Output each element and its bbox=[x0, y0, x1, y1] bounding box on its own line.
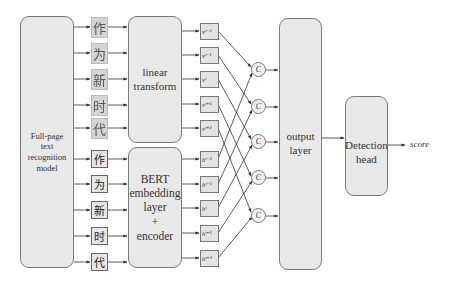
bert-label-3: layer bbox=[129, 200, 180, 214]
char-token: 时 bbox=[91, 227, 108, 245]
linear-transform-label-2: transform bbox=[134, 80, 177, 94]
v-vector: vᵗ⁻¹ bbox=[200, 47, 219, 64]
concat-node: C bbox=[251, 208, 266, 223]
concat-node: C bbox=[251, 99, 266, 114]
char-token: 新 bbox=[91, 201, 108, 219]
v-vector: vᵗ⁺² bbox=[200, 120, 219, 137]
concat-node: C bbox=[251, 170, 266, 185]
output-layer-label-1: output bbox=[286, 130, 314, 144]
v-vector: vᵗ bbox=[200, 71, 219, 88]
char-image: 新 bbox=[91, 69, 108, 90]
bert-label-1: BERT bbox=[129, 172, 180, 186]
ocr-model-label-2: text bbox=[28, 141, 67, 152]
bert-encoder-block: BERT embedding layer + encoder bbox=[128, 147, 182, 268]
h-vector: hᵗ⁻² bbox=[200, 151, 219, 168]
h-vector: hᵗ bbox=[200, 200, 219, 217]
output-layer-label-2: layer bbox=[286, 144, 314, 158]
output-layer-block: output layer bbox=[279, 18, 322, 270]
h-vector: hᵗ⁺¹ bbox=[200, 225, 219, 242]
bert-label-2: embedding bbox=[129, 186, 180, 200]
concat-node: C bbox=[251, 62, 266, 77]
char-image: 为 bbox=[91, 43, 108, 64]
char-image: 作 bbox=[91, 17, 108, 38]
detection-head-label-2: head bbox=[349, 153, 384, 167]
char-image: 时 bbox=[91, 95, 108, 116]
v-vector: vᵗ⁻² bbox=[200, 23, 219, 40]
concat-node: C bbox=[251, 134, 266, 149]
detection-head-block: Detection head bbox=[345, 96, 388, 196]
h-vector: hᵗ⁺² bbox=[200, 250, 219, 267]
bert-label-5: encoder bbox=[129, 229, 180, 243]
linear-transform-block: linear transform bbox=[128, 16, 182, 143]
ocr-model-label-3: recognition bbox=[28, 152, 67, 163]
bert-label-4: + bbox=[129, 215, 180, 229]
detection-head-label-1: Detection bbox=[345, 139, 388, 153]
char-token: 为 bbox=[91, 175, 108, 193]
ocr-model-block: Full-page text recognition model bbox=[20, 16, 74, 268]
h-vector: hᵗ⁻¹ bbox=[200, 176, 219, 193]
ocr-model-label-1: Full-page bbox=[28, 131, 67, 142]
char-image: 代 bbox=[91, 118, 108, 139]
ocr-model-label-4: model bbox=[28, 163, 67, 174]
char-token: 作 bbox=[91, 150, 108, 168]
v-vector: vᵗ⁺¹ bbox=[200, 96, 219, 113]
char-token: 代 bbox=[91, 253, 108, 271]
score-output-label: score bbox=[410, 139, 429, 149]
linear-transform-label-1: linear bbox=[134, 66, 177, 80]
